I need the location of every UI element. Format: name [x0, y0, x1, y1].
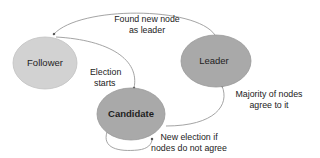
edge-label-election-starts-line2: starts — [94, 78, 116, 88]
edge-label-found-new-node-line1: Found new node — [114, 14, 180, 24]
edge-label-new-election-line1: New election if — [160, 132, 218, 142]
edge-arc-candidate-to-leader — [166, 86, 224, 126]
node-candidate: Candidate — [97, 88, 165, 140]
node-leader: Leader — [181, 35, 251, 87]
edge-label-new-election-line2: nodes do not agree — [151, 143, 227, 153]
node-follower: Follower — [13, 37, 77, 89]
edge-label-majority-line2: agree to it — [249, 100, 289, 110]
node-leader-label: Leader — [199, 55, 229, 66]
edge-label-found-new-node-line2: as leader — [129, 25, 165, 35]
node-follower-label: Follower — [27, 57, 63, 68]
edge-label-election-starts-line1: Election — [90, 67, 121, 77]
edge-label-majority-line1: Majority of nodes — [236, 89, 304, 99]
edge-leader-to-follower: Found new node as leader — [54, 13, 215, 35]
node-candidate-label: Candidate — [108, 108, 154, 119]
edge-candidate-to-leader: Majority of nodes agree to it — [166, 86, 303, 126]
state-diagram: Found new node as leader Election starts… — [0, 0, 320, 158]
